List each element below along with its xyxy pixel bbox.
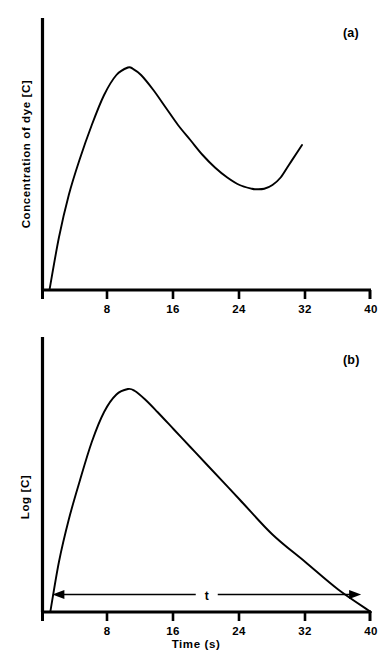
panel-a-y-axis-title: Concentration of dye [C] xyxy=(20,80,32,229)
panel-b-xtick-label-16: 16 xyxy=(166,625,179,637)
panel-a-xtick-label-8: 8 xyxy=(104,303,111,315)
panel-b-time-annotation: t xyxy=(52,589,361,603)
scientific-figure: (a) 8 16 24 32 40 C xyxy=(0,0,390,652)
panel-a-xtick-label-40: 40 xyxy=(364,303,377,315)
panel-b-x-axis-title: Time (s) xyxy=(172,638,221,650)
panel-a-xtick-label-24: 24 xyxy=(232,303,246,315)
figure-container: (a) 8 16 24 32 40 C xyxy=(0,0,390,652)
panel-a-xtick-label-32: 32 xyxy=(298,303,311,315)
panel-b: (b) 8 16 24 32 40 L xyxy=(19,337,378,650)
panel-a-tag: (a) xyxy=(343,26,359,40)
panel-b-tag: (b) xyxy=(343,353,360,367)
panel-a-x-tick-labels: 8 16 24 32 40 xyxy=(104,303,378,315)
panel-a: (a) 8 16 24 32 40 C xyxy=(20,18,378,315)
panel-b-y-axis-title: Log [C] xyxy=(19,475,31,519)
panel-b-xtick-label-32: 32 xyxy=(298,625,311,637)
panel-b-data-curve xyxy=(50,389,371,612)
panel-a-xtick-label-16: 16 xyxy=(166,303,179,315)
panel-b-x-tick-labels: 8 16 24 32 40 xyxy=(104,625,378,637)
panel-b-xtick-label-40: 40 xyxy=(364,625,377,637)
panel-a-data-curve xyxy=(49,67,302,290)
time-arrow-label: t xyxy=(205,589,209,603)
panel-b-xtick-label-24: 24 xyxy=(232,625,246,637)
time-arrow-right-head-icon xyxy=(349,590,361,599)
panel-b-xtick-label-8: 8 xyxy=(104,625,111,637)
